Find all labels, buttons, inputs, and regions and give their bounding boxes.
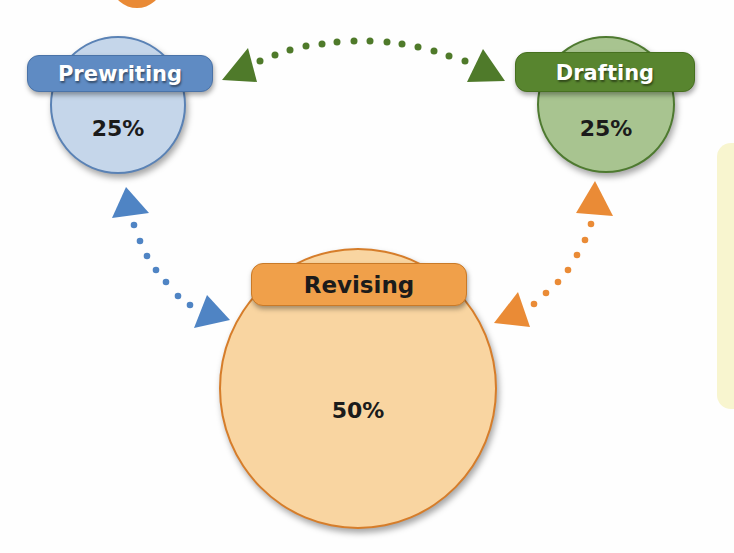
stage-drafting-label: Drafting <box>515 52 695 92</box>
arrowhead-down-icon <box>194 295 230 328</box>
connector-prewriting-revising <box>112 187 230 328</box>
connector-prewriting-drafting <box>222 38 505 83</box>
stage-prewriting-label: Prewriting <box>27 55 213 92</box>
writing-process-diagram: 25% Prewriting 25% Drafting 50% Revising <box>0 0 734 553</box>
stage-revising-label: Revising <box>251 263 467 306</box>
arrowhead-up-icon <box>576 181 613 216</box>
arrowhead-right-icon <box>467 49 505 82</box>
stage-prewriting-percent: 25% <box>52 116 184 141</box>
stage-drafting-percent: 25% <box>539 116 673 141</box>
arrowhead-down-icon <box>494 292 530 327</box>
connector-drafting-revising <box>494 181 613 327</box>
arrowhead-up-icon <box>112 187 149 218</box>
stage-revising-percent: 50% <box>221 398 495 423</box>
arrowhead-left-icon <box>222 48 257 82</box>
